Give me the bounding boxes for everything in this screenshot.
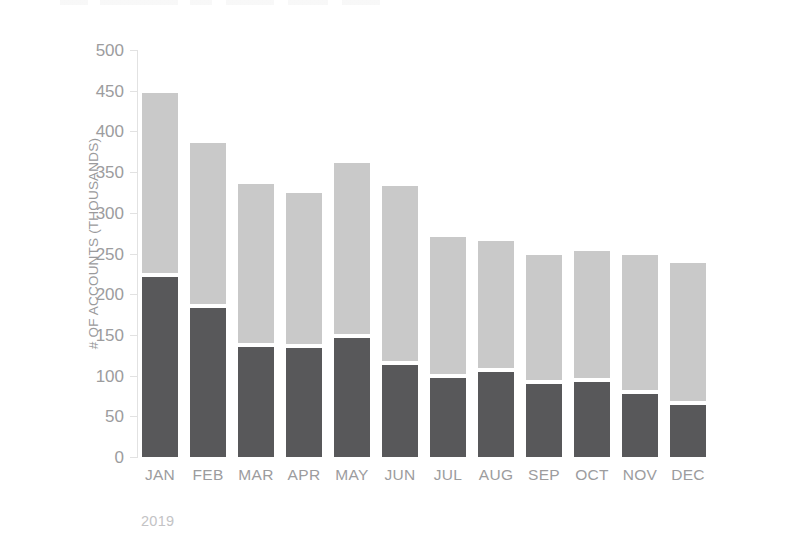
x-tick-label-sep: SEP (518, 466, 570, 484)
x-tick-label-oct: OCT (566, 466, 618, 484)
y-tick-label: 350 (62, 164, 124, 181)
bar-segment-light[interactable] (142, 93, 178, 273)
x-tick-label-jul: JUL (422, 466, 474, 484)
y-tick-mark (130, 172, 137, 173)
bar-group[interactable] (190, 50, 226, 457)
bar-segment-dark[interactable] (142, 277, 178, 457)
bar-segment-light[interactable] (574, 251, 610, 378)
y-tick-mark (130, 91, 137, 92)
x-tick-label-dec: DEC (662, 466, 714, 484)
bar-segment-dark[interactable] (670, 405, 706, 457)
bar-segment-dark[interactable] (526, 384, 562, 457)
bar-segment-dark[interactable] (430, 378, 466, 457)
cropped-header-sliver (60, 0, 380, 5)
x-tick-label-aug: AUG (470, 466, 522, 484)
bar-group[interactable] (334, 50, 370, 457)
x-tick-label-feb: FEB (182, 466, 234, 484)
y-tick-mark (130, 457, 137, 458)
bar-segment-dark[interactable] (622, 394, 658, 457)
bar-segment-light[interactable] (382, 186, 418, 361)
y-tick-label: 450 (62, 83, 124, 100)
bar-segment-light[interactable] (622, 255, 658, 390)
y-tick-label: 100 (62, 368, 124, 385)
y-tick-label: 0 (62, 449, 124, 466)
bar-group[interactable] (526, 50, 562, 457)
y-tick-mark (130, 335, 137, 336)
bar-segment-light[interactable] (334, 163, 370, 334)
y-tick-label: 400 (62, 123, 124, 140)
y-tick-mark (130, 213, 137, 214)
bar-group[interactable] (238, 50, 274, 457)
bar-segment-light[interactable] (190, 143, 226, 304)
bar-group[interactable] (670, 50, 706, 457)
bar-segment-light[interactable] (430, 237, 466, 374)
chart-container: # OF ACCOUNTS (THOUSANDS) 05010015020025… (0, 0, 793, 557)
period-caption: 2019 (141, 513, 174, 529)
x-tick-label-apr: APR (278, 466, 330, 484)
bar-group[interactable] (382, 50, 418, 457)
y-tick-mark (130, 294, 137, 295)
bar-segment-light[interactable] (526, 255, 562, 380)
x-tick-label-jun: JUN (374, 466, 426, 484)
y-tick-mark (130, 50, 137, 51)
x-tick-label-mar: MAR (230, 466, 282, 484)
bar-segment-dark[interactable] (478, 372, 514, 457)
bar-segment-dark[interactable] (382, 365, 418, 457)
bar-segment-dark[interactable] (574, 382, 610, 457)
y-tick-mark (130, 254, 137, 255)
y-tick-label: 300 (62, 205, 124, 222)
y-tick-label: 150 (62, 327, 124, 344)
y-tick-label: 250 (62, 246, 124, 263)
y-tick-mark (130, 376, 137, 377)
y-tick-mark (130, 416, 137, 417)
bar-group[interactable] (286, 50, 322, 457)
bar-group[interactable] (478, 50, 514, 457)
y-tick-mark (130, 131, 137, 132)
bar-segment-dark[interactable] (238, 347, 274, 457)
bar-segment-dark[interactable] (334, 338, 370, 457)
x-tick-label-jan: JAN (134, 466, 186, 484)
bar-segment-dark[interactable] (190, 308, 226, 457)
y-tick-label: 200 (62, 286, 124, 303)
bar-group[interactable] (574, 50, 610, 457)
bar-segment-light[interactable] (286, 193, 322, 344)
x-tick-label-may: MAY (326, 466, 378, 484)
bar-group[interactable] (142, 50, 178, 457)
plot-area (137, 50, 789, 457)
bar-group[interactable] (430, 50, 466, 457)
y-tick-label: 50 (62, 408, 124, 425)
bar-segment-light[interactable] (478, 241, 514, 368)
y-tick-label: 500 (62, 42, 124, 59)
bar-segment-light[interactable] (238, 184, 274, 343)
bar-group[interactable] (622, 50, 658, 457)
bar-segment-dark[interactable] (286, 348, 322, 457)
x-tick-label-nov: NOV (614, 466, 666, 484)
bar-segment-light[interactable] (670, 263, 706, 401)
